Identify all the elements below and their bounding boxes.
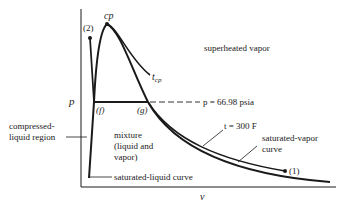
- sat-liquid-label: saturated-liquid curve: [114, 172, 193, 182]
- x-axis-label: v: [200, 191, 205, 202]
- sat-vapor-leader: [238, 146, 257, 162]
- superheated-label: superheated vapor: [204, 43, 270, 53]
- isotherm-label: t = 300 F: [224, 121, 257, 131]
- f-label: (f): [96, 105, 105, 115]
- critical-isotherm: [107, 24, 150, 75]
- point-2-label: (2): [83, 23, 94, 33]
- compressed-label-1: compressed-: [9, 121, 54, 131]
- saturated-liquid-curve: [89, 24, 107, 178]
- y-axis-label: p: [68, 95, 75, 107]
- point-1-label: (1): [289, 166, 300, 176]
- compressed-label-2: liquid region: [9, 132, 56, 142]
- pv-diagram: p v cp (2) (1) (f) (g) tcp superheated v…: [0, 0, 342, 207]
- compressed-liquid-line: [90, 38, 94, 102]
- mixture-label-3: vapor): [114, 152, 138, 162]
- critical-point-label: cp: [104, 10, 113, 21]
- g-label: (g): [137, 105, 148, 115]
- sat-vapor-label-1: saturated-vapor: [262, 133, 318, 143]
- point-2-marker: [88, 36, 92, 40]
- t-cp-label: tcp: [152, 71, 162, 84]
- sat-vapor-label-2: curve: [262, 144, 282, 154]
- isotherm-leader: [203, 130, 223, 146]
- mixture-label-1: mixture: [114, 130, 142, 140]
- mixture-label-2: (liquid and: [114, 141, 154, 151]
- pressure-value-label: p = 66.98 psia: [203, 97, 254, 107]
- point-1-marker: [283, 169, 287, 173]
- critical-point-marker: [105, 22, 109, 26]
